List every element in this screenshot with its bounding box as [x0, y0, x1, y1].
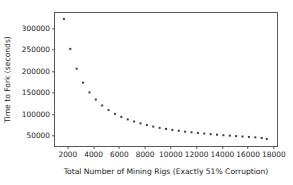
data-point [139, 122, 141, 124]
data-point [222, 134, 224, 136]
x-axis-tick-mark [222, 146, 223, 149]
data-point [171, 129, 173, 131]
y-axis-tick: 300000 [22, 25, 55, 32]
x-axis-tick-mark [145, 146, 146, 149]
plot-area: 5000010000015000020000025000030000020004… [54, 12, 278, 147]
data-point [133, 121, 135, 123]
y-axis-tick-label: 250000 [22, 47, 50, 54]
x-axis-tick-mark [196, 146, 197, 149]
y-axis-label-text: Time to Fork (seconds) [3, 36, 12, 123]
data-point [63, 18, 65, 20]
y-axis-tick-mark [52, 93, 55, 94]
x-axis-tick: 18000 [262, 146, 286, 158]
data-point [120, 116, 122, 118]
y-axis-label: Time to Fork (seconds) [2, 12, 13, 147]
y-axis-tick: 200000 [22, 68, 55, 75]
data-point [165, 128, 167, 130]
data-point [216, 134, 218, 136]
chart-figure: Time to Fork (seconds) 50000100000150000… [0, 0, 293, 185]
data-point [266, 138, 268, 140]
x-axis-tick: 10000 [159, 146, 183, 158]
x-axis-tick: 12000 [185, 146, 209, 158]
y-axis-tick: 250000 [22, 47, 55, 54]
y-axis-tick-label: 300000 [22, 25, 50, 32]
data-point [235, 135, 237, 137]
x-axis-tick-label: 14000 [211, 151, 235, 158]
data-point [127, 118, 129, 120]
x-axis-tick-label: 10000 [159, 151, 183, 158]
x-axis-tick: 2000 [58, 146, 77, 158]
x-axis-tick-mark [67, 146, 68, 149]
x-axis-tick-mark [248, 146, 249, 149]
y-axis-tick-label: 200000 [22, 68, 50, 75]
data-point [146, 124, 148, 126]
x-axis-label: Total Number of Mining Rigs (Exactly 51%… [54, 167, 278, 176]
x-axis-tick-label: 4000 [84, 151, 103, 158]
data-point [69, 48, 71, 50]
x-axis-tick: 4000 [84, 146, 103, 158]
y-axis-tick-mark [52, 71, 55, 72]
data-point [191, 131, 193, 133]
data-point [261, 137, 263, 139]
data-point [159, 127, 161, 129]
data-point [178, 130, 180, 132]
data-point [203, 133, 205, 135]
x-axis-tick-label: 6000 [110, 151, 129, 158]
x-axis-tick-mark [93, 146, 94, 149]
y-axis-tick: 100000 [22, 111, 55, 118]
x-axis-tick-mark [170, 146, 171, 149]
x-axis-tick-mark [273, 146, 274, 149]
data-point [76, 68, 78, 70]
y-axis-tick-mark [52, 114, 55, 115]
data-point [242, 136, 244, 138]
data-point [152, 126, 154, 128]
data-point [82, 82, 84, 84]
y-axis-tick-label: 150000 [22, 89, 50, 96]
x-axis-tick-label: 2000 [58, 151, 77, 158]
y-axis-tick-label: 100000 [22, 111, 50, 118]
data-point [184, 131, 186, 133]
data-point [197, 132, 199, 134]
x-axis-tick-label: 8000 [136, 151, 155, 158]
y-axis-tick: 50000 [26, 132, 55, 139]
data-point [229, 135, 231, 137]
y-axis-tick-label: 50000 [26, 132, 50, 139]
data-point [88, 91, 90, 93]
data-point [114, 113, 116, 115]
data-point [95, 99, 97, 101]
data-point [254, 136, 256, 138]
x-axis-tick: 8000 [136, 146, 155, 158]
scatter-plot [55, 13, 277, 146]
x-axis-tick: 16000 [236, 146, 260, 158]
x-axis-tick-mark [119, 146, 120, 149]
y-axis-tick-mark [52, 50, 55, 51]
data-point [101, 104, 103, 106]
y-axis-tick-mark [52, 28, 55, 29]
x-axis-tick-label: 12000 [185, 151, 209, 158]
x-axis-tick: 14000 [211, 146, 235, 158]
x-axis-tick-label: 16000 [236, 151, 260, 158]
data-point [248, 136, 250, 138]
data-point [210, 133, 212, 135]
data-point [108, 109, 110, 111]
y-axis-tick-mark [52, 136, 55, 137]
y-axis-tick: 150000 [22, 89, 55, 96]
x-axis-tick: 6000 [110, 146, 129, 158]
x-axis-tick-label: 18000 [262, 151, 286, 158]
